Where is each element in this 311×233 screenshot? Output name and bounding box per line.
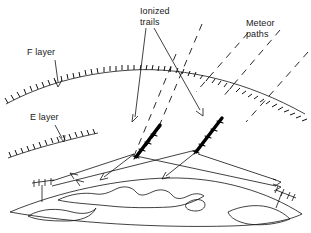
annotation-leader-arrows <box>55 28 203 142</box>
e-layer-ionosphere-arc-left <box>8 129 98 158</box>
signal-ray-paths <box>52 150 281 191</box>
label-ionized-trails: Ionized trails <box>140 6 170 27</box>
transmitter-antenna <box>32 178 54 202</box>
ionized-trail-left <box>133 125 161 159</box>
label-f-layer: F layer <box>27 47 55 58</box>
dashed-meteor-path-lines <box>134 24 308 156</box>
meteor-scatter-diagram: Ionized trails Meteor paths F layer E la… <box>0 0 311 233</box>
label-e-layer: E layer <box>30 112 59 123</box>
label-meteor-paths: Meteor paths <box>246 18 275 39</box>
ionized-trail-right <box>193 118 223 154</box>
